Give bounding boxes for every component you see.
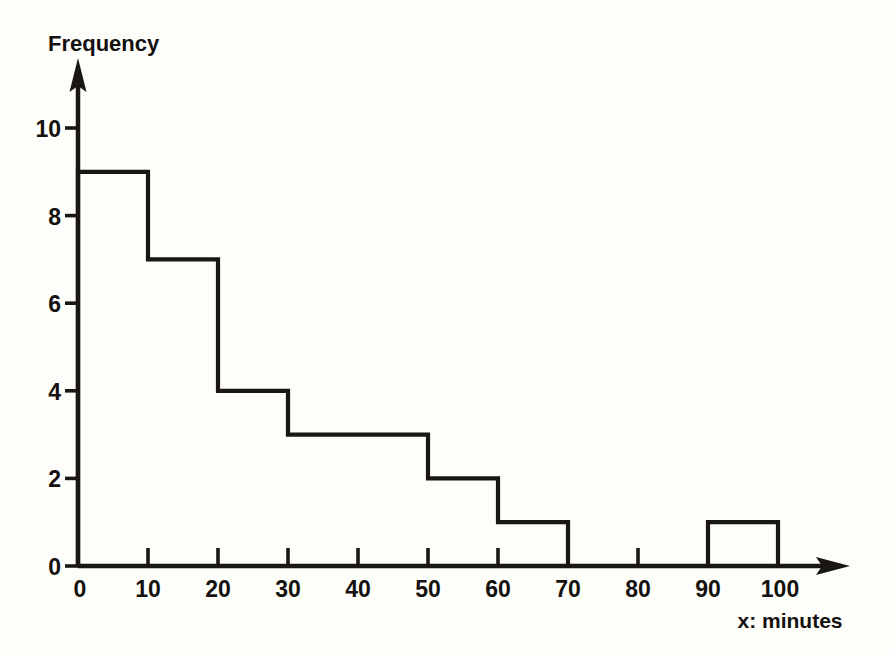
histogram-bar-60-70 bbox=[498, 522, 568, 566]
y-tick-label-10: 10 bbox=[35, 116, 61, 142]
histogram-bar-50-60 bbox=[428, 478, 498, 566]
histogram-bars bbox=[78, 172, 778, 566]
histogram-bar-40-50 bbox=[358, 435, 428, 566]
x-tick-label-80: 80 bbox=[625, 576, 651, 602]
x-tick-label-10: 10 bbox=[135, 576, 161, 602]
histogram-bar-20-30 bbox=[218, 391, 288, 566]
y-tick-label-8: 8 bbox=[48, 204, 61, 230]
y-tick-label-6: 6 bbox=[48, 291, 61, 317]
histogram-bar-10-20 bbox=[148, 259, 218, 566]
x-tick-label-30: 30 bbox=[275, 576, 301, 602]
x-tick-label-0: 0 bbox=[74, 576, 87, 602]
x-tick-label-20: 20 bbox=[205, 576, 231, 602]
x-tick-label-60: 60 bbox=[485, 576, 511, 602]
x-tick-label-50: 50 bbox=[415, 576, 441, 602]
x-tick-label-100: 100 bbox=[761, 576, 799, 602]
y-tick-label-4: 4 bbox=[48, 379, 61, 405]
y-axis-title: Frequency bbox=[48, 31, 160, 56]
y-axis-tick-labels: 0 2 4 6 8 10 bbox=[35, 116, 61, 580]
histogram-bar-0-10 bbox=[78, 172, 148, 566]
x-axis-title: x: minutes bbox=[737, 609, 842, 632]
histogram-bar-90-100 bbox=[708, 522, 778, 566]
x-axis-tick-labels: 0 10 20 30 40 50 60 70 80 90 100 bbox=[74, 576, 800, 602]
y-tick-label-2: 2 bbox=[48, 466, 61, 492]
x-tick-label-70: 70 bbox=[555, 576, 581, 602]
histogram-figure: Frequency 0 2 4 6 8 10 bbox=[0, 0, 894, 654]
histogram-canvas: Frequency 0 2 4 6 8 10 bbox=[0, 0, 894, 654]
histogram-bar-30-40 bbox=[288, 435, 358, 566]
x-tick-label-90: 90 bbox=[695, 576, 721, 602]
x-tick-label-40: 40 bbox=[345, 576, 371, 602]
y-tick-label-0: 0 bbox=[48, 554, 61, 580]
